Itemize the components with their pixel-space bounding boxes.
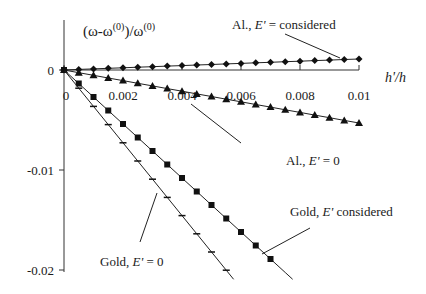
data-point [179,62,186,69]
x-tick-label: 0 [63,88,70,103]
series-line [64,70,226,270]
annotation-gold-considered: Gold, E' considered [290,204,393,219]
data-point [164,63,171,70]
y-tick-label: 0 [48,63,55,78]
chart: (ω-ω(0))/ω(0) h'/h 00.0020.0040.0060.008… [0,0,426,294]
annotation-al-zero: Al., E' = 0 [286,153,340,168]
data-point [223,60,230,67]
data-point [193,62,200,69]
annotation-leader-line [285,34,340,58]
data-point [268,256,274,262]
data-point [326,57,333,64]
x-axis-label: h'/h [385,70,406,85]
data-point [282,58,289,65]
data-point [267,59,274,66]
data-point [252,59,259,66]
data-point [208,61,215,68]
data-point [297,58,304,65]
data-point [164,162,170,168]
data-point [135,135,141,141]
data-point [179,175,185,181]
y-tick-label: -0.02 [27,263,54,278]
data-point [209,202,215,208]
y-tick-label: -0.01 [27,163,54,178]
data-point [253,243,259,249]
data-point [238,229,244,235]
data-point [105,65,112,72]
data-point [356,56,363,63]
data-point [120,121,126,127]
y-axis-label: (ω-ω(0))/ω(0) [83,21,155,40]
x-tick-label: 0.008 [285,88,314,103]
annotation-leader-line [140,193,157,242]
annotation-al-considered: Al., E' = considered [232,17,336,32]
data-point [105,108,111,114]
annotation-leader-line [191,104,241,143]
series-al-zero [60,66,363,126]
x-tick-label: 0.002 [108,88,137,103]
annotation-leader-line [262,228,310,254]
data-point [91,94,97,100]
data-point [194,189,200,195]
series-line-extension [285,273,292,280]
series-al-considered [61,56,363,74]
series-gold-zero [61,70,234,279]
series-line-extension [226,270,233,279]
data-point [311,57,318,64]
data-point [341,56,348,63]
x-tick-label: 0.01 [348,88,371,103]
data-point [150,148,156,154]
data-point [238,60,245,67]
y-ticks: 0-0.01-0.02 [27,63,64,278]
annotation-leaders [140,34,340,254]
annotation-gold-zero: Gold, E' = 0 [100,254,164,269]
data-point [149,63,156,70]
data-point [223,216,229,222]
